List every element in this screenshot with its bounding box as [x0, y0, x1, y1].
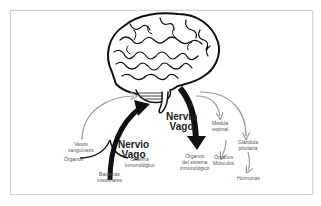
nervio-vago-right-label: Nervio Vago: [166, 112, 197, 132]
label-glandula-pituitaria: Glándula pituitaria: [238, 139, 258, 151]
label-sistema-inmunologico: Sistema inmunológico: [125, 156, 154, 168]
label-medula-espinal: Médula espinal: [212, 120, 228, 132]
brain-icon: [108, 13, 219, 112]
label-organos-musculos: Órganos Músculos: [213, 154, 234, 166]
label-hormonas: Hormonas: [237, 175, 260, 181]
label-vasos-sanguineos: Vasos sanguíneos: [68, 141, 94, 153]
vagus-nerve-diagram: [0, 0, 321, 206]
label-organos-sistema-inmunologico: Órganos del sistema inmunológico: [180, 153, 209, 171]
label-bacterias-intestinales: Bacterias intestinales: [97, 171, 122, 183]
label-organos: Órganos: [64, 156, 83, 162]
